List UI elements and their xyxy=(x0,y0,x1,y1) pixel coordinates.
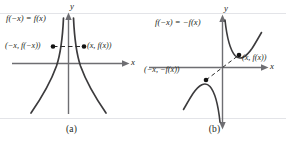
y-axis-b xyxy=(219,15,225,130)
point-right-a xyxy=(82,44,87,49)
y-axis-label-a: y xyxy=(70,2,74,11)
curve-right-branch-a xyxy=(74,18,107,113)
point-upper-b xyxy=(237,53,242,58)
curve-lower-branch-b xyxy=(184,84,221,122)
point-lower-b xyxy=(204,78,209,83)
caption-a: (a) xyxy=(0,124,143,134)
x-axis-label-a: x xyxy=(131,58,135,67)
caption-b: (b) xyxy=(143,124,286,134)
y-axis-label-b: y xyxy=(224,4,228,13)
function-label-a: f(−x) = f(x) xyxy=(6,14,46,23)
point-label-left-a: (−x, f(−x)) xyxy=(5,42,41,50)
x-axis-a xyxy=(12,60,130,66)
panel-a: f(−x) = f(x) (−x, f(−x)) (x, f(x)) x y (… xyxy=(0,0,143,146)
curve-left-branch-a xyxy=(31,18,64,113)
point-label-right-a: (x, f(x)) xyxy=(87,42,112,50)
point-left-a xyxy=(51,44,56,49)
panel-b: f(−x) = −f(x) (x, f(x)) (−x, −f(x)) x y … xyxy=(143,0,286,146)
point-label-upper-b: (x, f(x)) xyxy=(242,54,267,62)
function-label-b: f(−x) = −f(x) xyxy=(155,18,201,27)
x-axis-label-b: x xyxy=(270,62,274,71)
point-label-lower-b: (−x, −f(x)) xyxy=(144,66,180,74)
figure-root: f(−x) = f(x) (−x, f(−x)) (x, f(x)) x y (… xyxy=(0,0,286,146)
